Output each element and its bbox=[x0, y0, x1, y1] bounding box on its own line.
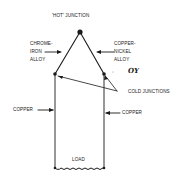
left-cold-junction-dot bbox=[53, 72, 57, 76]
copper-nickel-alloy-label-line1: COPPER- bbox=[114, 41, 136, 47]
copper-nickel-alloy-label-line2: NICKEL bbox=[114, 49, 131, 55]
arrowhead-cold-right bbox=[104, 75, 108, 80]
thermocouple-diagram: 'HOT' JUNCTION CHROME- IRON ALLOY COPPER… bbox=[0, 0, 186, 185]
copper-nickel-alloy-label-line3: ALLOY bbox=[114, 57, 129, 63]
arrowhead-left-alloy bbox=[57, 50, 62, 54]
hot-junction-label: 'HOT' JUNCTION bbox=[52, 13, 89, 19]
hot-junction-dot bbox=[77, 29, 82, 34]
load-label: LOAD bbox=[72, 157, 85, 163]
chrome-iron-alloy-label-line3: ALLOY bbox=[30, 57, 45, 63]
handwritten-annotation: OY bbox=[128, 66, 139, 75]
right-cold-junction-dot bbox=[102, 72, 106, 76]
arrowhead-left-copper bbox=[49, 108, 54, 112]
arrowhead-cold-left bbox=[58, 76, 63, 79]
chrome-iron-alloy-label-line2: IRON bbox=[30, 49, 42, 55]
arrowhead-right-copper bbox=[105, 111, 110, 115]
cold-junctions-label: COLD JUNCTIONS bbox=[128, 89, 170, 95]
chrome-iron-alloy-label-line1: CHROME- bbox=[30, 41, 53, 47]
left-copper-label: COPPER bbox=[13, 107, 33, 113]
right-copper-label: COPPER bbox=[122, 110, 142, 116]
arrowhead-right-alloy bbox=[96, 50, 101, 54]
load-resistor bbox=[55, 168, 104, 170]
